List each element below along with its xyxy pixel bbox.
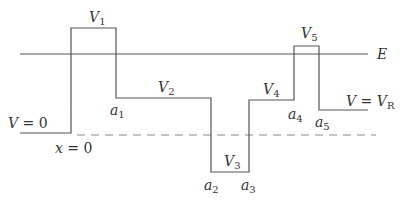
label-a1: a1 bbox=[110, 102, 125, 120]
label-v2: V2 bbox=[158, 79, 175, 97]
label-a2: a2 bbox=[204, 177, 219, 195]
label-a5: a5 bbox=[315, 114, 330, 132]
label-energy: E bbox=[376, 46, 387, 62]
label-x0: x = 0 bbox=[55, 140, 92, 156]
label-a3: a3 bbox=[241, 177, 256, 195]
label-vr: V = VR bbox=[346, 93, 395, 111]
label-v0: V = 0 bbox=[8, 115, 48, 131]
label-a4: a4 bbox=[288, 106, 303, 124]
label-v5: V5 bbox=[301, 25, 318, 43]
label-v1: V1 bbox=[89, 9, 106, 27]
potential-diagram: V = 0 x = 0 V1 V2 V3 V4 V5 V = VR a1 a2 … bbox=[0, 0, 400, 205]
label-v4: V4 bbox=[263, 81, 280, 99]
label-v3: V3 bbox=[224, 153, 241, 171]
